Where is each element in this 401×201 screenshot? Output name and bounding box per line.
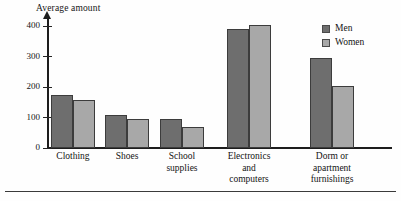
- category-label-3: Electronics and computers: [204, 151, 294, 186]
- bar-men-group-4: [310, 58, 332, 148]
- bar-men-group-1: [105, 115, 127, 149]
- legend-item-women: Women: [322, 36, 364, 49]
- bar-women-group-1: [127, 119, 149, 148]
- legend: Men Women: [322, 22, 364, 50]
- legend-swatch-men-icon: [322, 25, 330, 33]
- category-label-4: Dorm or apartment furnishings: [287, 151, 377, 186]
- bar-women-group-3: [249, 25, 271, 148]
- bottom-divider-rule: [5, 191, 396, 192]
- bar-men-group-3: [227, 29, 249, 148]
- y-tick-label-wrap: 0: [8, 148, 40, 149]
- legend-item-men: Men: [322, 22, 364, 35]
- bar-women-group-2: [182, 127, 204, 148]
- bar-men-group-2: [160, 119, 182, 148]
- bar-women-group-0: [73, 100, 95, 148]
- legend-label-women: Women: [335, 36, 364, 49]
- legend-swatch-women-icon: [322, 39, 330, 47]
- bar-chart-figure: Average amount 0100200300400 ClothingSho…: [0, 0, 401, 201]
- bar-women-group-4: [332, 86, 354, 148]
- legend-label-men: Men: [335, 22, 352, 35]
- bar-men-group-0: [51, 95, 73, 148]
